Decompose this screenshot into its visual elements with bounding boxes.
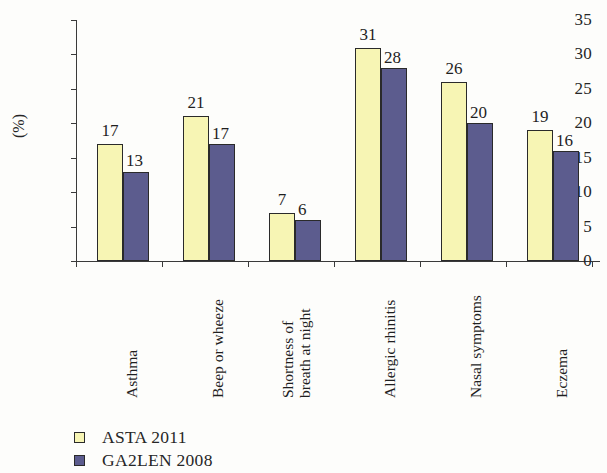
legend-item-label: ASTA 2011 xyxy=(102,428,187,447)
x-tick-mark xyxy=(248,261,249,267)
x-category-label: Shortness ofbreath at night xyxy=(279,258,313,398)
y-tick-mark xyxy=(71,192,76,193)
bar-value-label: 17 xyxy=(212,125,242,142)
x-category-label-line: breath at night xyxy=(296,258,313,398)
legend-swatch-asta xyxy=(74,432,85,443)
chart-legend: ASTA 2011GA2LEN 2008 xyxy=(74,426,374,472)
x-category-label: Nasal symptoms xyxy=(467,258,484,398)
bar xyxy=(97,144,123,261)
bar-value-label: 20 xyxy=(470,104,500,121)
bar xyxy=(467,123,493,261)
bar xyxy=(209,144,235,261)
bar xyxy=(527,130,553,261)
x-category-label-line: Beep or wheeze xyxy=(209,258,226,398)
y-tick-mark xyxy=(71,227,76,228)
bar-value-label: 7 xyxy=(267,191,297,208)
x-category-label: Allergic rhinitis xyxy=(381,258,398,398)
x-category-label-line: Asthma xyxy=(123,258,140,398)
y-tick-label: 35 xyxy=(575,11,592,28)
legend-item[interactable]: ASTA 2011 xyxy=(74,426,374,449)
bar-value-label: 31 xyxy=(353,26,383,43)
bar xyxy=(183,116,209,261)
y-tick-label: 20 xyxy=(575,114,592,131)
bar xyxy=(441,82,467,261)
x-category-label: Beep or wheeze xyxy=(209,258,226,398)
y-tick-label: 30 xyxy=(575,45,592,62)
bar-value-label: 13 xyxy=(126,152,156,169)
bar-value-label: 6 xyxy=(298,201,328,218)
x-category-label-line: Nasal symptoms xyxy=(467,258,484,398)
bar-value-label: 16 xyxy=(556,132,586,149)
y-axis-line xyxy=(76,20,77,262)
bar xyxy=(553,151,579,261)
x-category-label-line: Shortness of xyxy=(279,258,296,398)
y-tick-mark xyxy=(71,20,76,21)
bar-value-label: 19 xyxy=(525,108,555,125)
x-axis-line xyxy=(76,261,600,262)
bar-value-label: 28 xyxy=(384,49,414,66)
plot-area: 35302520151050 1721731261913176282016 xyxy=(76,20,600,261)
x-tick-mark xyxy=(420,261,421,267)
x-tick-mark xyxy=(76,261,77,267)
bar xyxy=(269,213,295,261)
y-axis-title: (%) xyxy=(11,113,27,139)
legend-item-label: GA2LEN 2008 xyxy=(102,451,213,470)
y-tick-label: 25 xyxy=(575,80,592,97)
bar xyxy=(381,68,407,261)
bar xyxy=(295,220,321,261)
y-tick-mark xyxy=(71,123,76,124)
chart-figure: (%) 35302520151050 172173126191317628201… xyxy=(0,0,607,473)
y-tick-label: 0 xyxy=(583,252,592,269)
x-category-label: Eczema xyxy=(553,258,570,398)
x-tick-mark xyxy=(592,261,593,267)
bar xyxy=(355,48,381,261)
x-category-label: Asthma xyxy=(123,258,140,398)
y-tick-mark xyxy=(71,54,76,55)
bar-value-label: 26 xyxy=(439,60,469,77)
y-tick-mark xyxy=(71,158,76,159)
x-tick-mark xyxy=(334,261,335,267)
x-category-label-line: Eczema xyxy=(553,258,570,398)
bar-value-label: 21 xyxy=(181,94,211,111)
y-tick-label: 5 xyxy=(583,218,592,235)
legend-item[interactable]: GA2LEN 2008 xyxy=(74,449,374,472)
y-tick-mark xyxy=(71,89,76,90)
bar-value-label: 17 xyxy=(95,122,125,139)
x-tick-mark xyxy=(162,261,163,267)
legend-swatch-ga2len xyxy=(74,455,85,466)
x-tick-mark xyxy=(506,261,507,267)
x-category-label-line: Allergic rhinitis xyxy=(381,258,398,398)
bar xyxy=(123,172,149,262)
